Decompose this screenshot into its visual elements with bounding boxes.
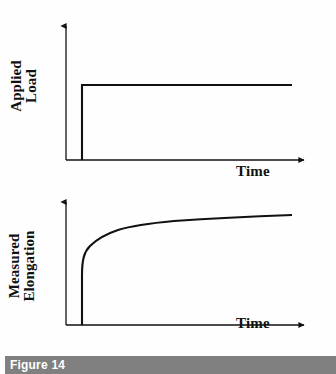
chart-measured-elongation: MeasuredElongation Time	[0, 184, 336, 349]
y-axis-title-line2: Load	[23, 69, 39, 103]
figure-container: AppliedLoad Time MeasuredElongation Time	[0, 0, 336, 374]
chart-measured-elongation-plot	[0, 184, 336, 349]
y-axis-title-line1: Measured	[6, 234, 22, 299]
y-axis-title-line1: Applied	[8, 60, 24, 112]
y-axis-title-applied-load: AppliedLoad	[9, 31, 49, 141]
y-axis-title-line2: Elongation	[21, 230, 37, 301]
chart-applied-load: AppliedLoad Time	[0, 0, 336, 190]
x-axis-title-time-load: Time	[236, 163, 270, 180]
x-axis-title-time-elongation: Time	[236, 315, 270, 332]
elongation-creep-curve	[82, 215, 292, 325]
chart-applied-load-plot	[0, 0, 336, 190]
figure-caption-label: Figure 14	[10, 357, 65, 373]
y-axis-title-measured-elongation: MeasuredElongation	[7, 205, 47, 327]
load-step-curve	[82, 85, 292, 160]
